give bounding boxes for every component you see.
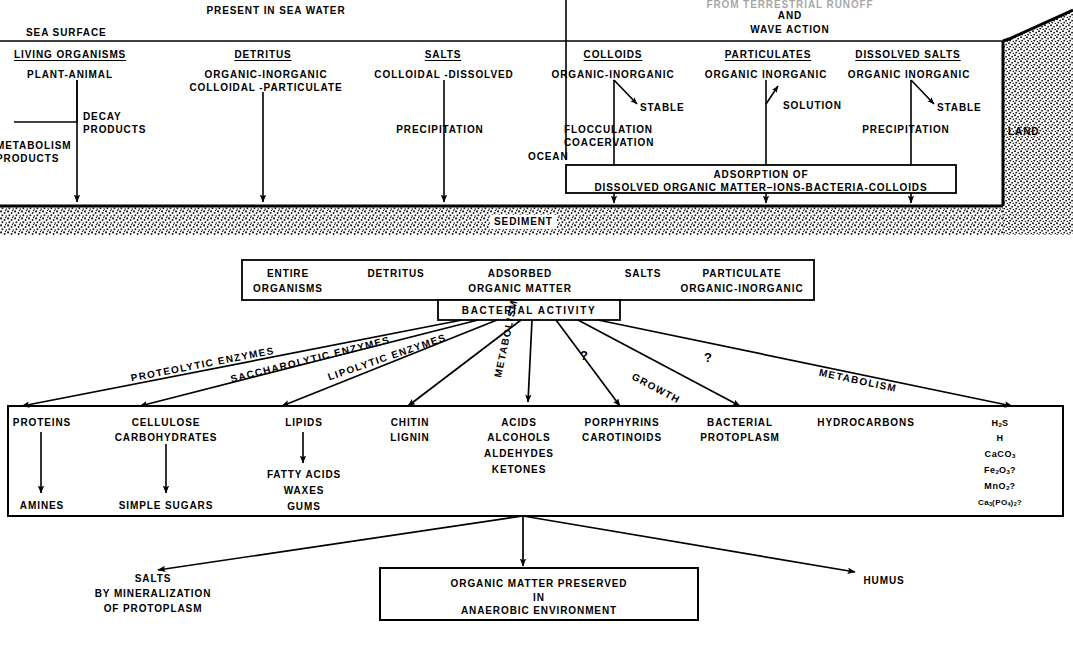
- column-text-dissolved-salts-1: ORGANIC INORGANIC: [848, 68, 971, 82]
- label-particulates-solution: SOLUTION: [783, 99, 842, 113]
- outcome-left-line1: SALTS: [135, 572, 172, 586]
- sediment-label: SEDIMENT: [490, 215, 557, 229]
- product-0-primary-0: PROTEINS: [13, 416, 71, 430]
- mineral-1: H: [996, 432, 1003, 444]
- mineral-5-formula: Ca3(PO4)2?: [978, 498, 1022, 507]
- pathway-label-question-1: ?: [580, 348, 588, 363]
- column-header-particulates: PARTICULATES: [725, 48, 812, 62]
- label-metabolism-products-1: METABOLISM: [0, 139, 71, 153]
- arrow-dissolved-salts-stable: [911, 80, 934, 104]
- substrate-item-2-line1: ADSORBED: [488, 267, 552, 281]
- pathway-arrow-question-2: [556, 320, 620, 406]
- mineral-2: CaCO3: [985, 448, 1016, 461]
- product-4-primary-2: ALDEHYDES: [484, 447, 554, 461]
- column-text-plant-animal: PLANT-ANIMAL: [27, 68, 113, 82]
- title-wave-action: WAVE ACTION: [750, 23, 829, 37]
- product-6-primary-0: BACTERIAL: [707, 416, 773, 430]
- substrate-item-3-line1: SALTS: [625, 267, 662, 281]
- substrate-item-2-line2: ORGANIC MATTER: [468, 282, 572, 296]
- diagram-vector-layer: [0, 0, 1073, 659]
- product-1-secondary-0: SIMPLE SUGARS: [119, 499, 214, 513]
- outcome-center-line1: ORGANIC MATTER PRESERVED: [451, 577, 628, 591]
- label-coacervation: COACERVATION: [564, 136, 654, 150]
- mineral-0: H2S: [991, 417, 1008, 430]
- product-1-primary-1: CARBOHYDRATES: [115, 431, 218, 445]
- label-dissolved-salts-stable: STABLE: [937, 101, 982, 115]
- product-2-secondary-0: FATTY ACIDS: [267, 468, 341, 482]
- land-mass: [1003, 10, 1073, 235]
- substrate-item-4-line1: PARTICULATE: [703, 267, 782, 281]
- outcome-left-line3: OF PROTOPLASM: [104, 602, 203, 616]
- label-decay-1: DECAY: [83, 110, 122, 124]
- product-2-secondary-1: WAXES: [284, 484, 325, 498]
- label-dissolved-salts-precipitation: PRECIPITATION: [862, 123, 949, 137]
- product-4-primary-3: KETONES: [492, 463, 546, 477]
- outcome-arrow-salts: [158, 516, 523, 570]
- arrow-particulates-solution: [766, 86, 778, 104]
- mineral-1-formula: H: [996, 433, 1003, 443]
- sea-surface-label: SEA SURFACE: [26, 26, 107, 40]
- product-6-primary-1: PROTOPLASM: [700, 431, 779, 445]
- product-7-primary-0: HYDROCARBONS: [817, 416, 914, 430]
- column-text-salts-1: COLLOIDAL -DISSOLVED: [374, 68, 513, 82]
- mineral-4: MnO2?: [984, 480, 1015, 493]
- ocean-label: OCEAN: [528, 150, 569, 164]
- column-text-detritus-2: COLLOIDAL -PARTICULATE: [189, 81, 342, 95]
- outcome-left-line2: BY MINERALIZATION: [95, 587, 212, 601]
- adsorption-box-line2: DISSOLVED ORGANIC MATTER–IONS-BACTERIA-C…: [594, 181, 927, 195]
- arrow-colloids-stable: [614, 80, 637, 104]
- bacterial-activity-label: BACTERIAL ACTIVITY: [462, 304, 596, 318]
- title-and: AND: [778, 9, 802, 23]
- substrate-item-0-line1: ENTIRE: [267, 267, 309, 281]
- column-header-detritus: DETRITUS: [234, 48, 291, 62]
- column-text-colloids-1: ORGANIC-INORGANIC: [551, 68, 674, 82]
- substrate-item-4-line2: ORGANIC-INORGANIC: [680, 282, 803, 296]
- column-header-salts: SALTS: [425, 48, 462, 62]
- column-text-particulates-1: ORGANIC INORGANIC: [705, 68, 828, 82]
- column-text-detritus-1: ORGANIC-INORGANIC: [204, 68, 327, 82]
- substrate-item-1-line1: DETRITUS: [367, 267, 424, 281]
- label-colloids-stable: STABLE: [640, 101, 685, 115]
- column-header-dissolved-salts: DISSOLVED SALTS: [855, 48, 960, 62]
- diagram-canvas: PRESENT IN SEA WATER FROM TERRESTRIAL RU…: [0, 0, 1073, 659]
- column-header-colloids: COLLOIDS: [584, 48, 643, 62]
- mineral-5: Ca3(PO4)2?: [978, 497, 1022, 509]
- product-3-primary-0: CHITIN: [391, 416, 430, 430]
- mineral-3-formula: Fe2O3?: [984, 465, 1016, 475]
- mineral-0-formula: H2S: [991, 418, 1008, 428]
- product-3-primary-1: LIGNIN: [390, 431, 429, 445]
- outcome-center-line2: IN: [533, 591, 545, 605]
- pathway-arrows: [22, 320, 1012, 406]
- mineral-2-formula: CaCO3: [985, 449, 1016, 459]
- label-flocculation: FLOCCULATION: [564, 123, 653, 137]
- outcome-arrows: [158, 516, 855, 572]
- column-header-living-organisms: LIVING ORGANISMS: [14, 48, 126, 62]
- arrow-metabolism-products: [14, 80, 77, 122]
- label-salts-precipitation: PRECIPITATION: [396, 123, 483, 137]
- adsorption-box-line1: ADSORPTION OF: [713, 168, 808, 182]
- product-5-primary-0: PORPHYRINS: [584, 416, 659, 430]
- product-2-secondary-2: GUMS: [287, 500, 321, 514]
- pathway-arrow-question-1: [528, 320, 532, 402]
- substrate-item-0-line2: ORGANISMS: [253, 282, 323, 296]
- title-present-in-sea-water: PRESENT IN SEA WATER: [206, 4, 345, 18]
- pathway-arrow-proteolytic: [22, 320, 462, 406]
- product-1-primary-0: CELLULOSE: [132, 416, 201, 430]
- product-4-primary-0: ACIDS: [501, 416, 537, 430]
- mineral-4-formula: MnO2?: [984, 481, 1015, 491]
- mineral-3: Fe2O3?: [984, 464, 1016, 477]
- product-2-primary-0: LIPIDS: [285, 416, 323, 430]
- label-decay-2: PRODUCTS: [83, 123, 146, 137]
- outcome-center-line3: ANAEROBIC ENVIRONMENT: [461, 604, 617, 618]
- product-0-secondary-0: AMINES: [20, 499, 64, 513]
- product-5-primary-1: CAROTINOIDS: [582, 431, 662, 445]
- label-metabolism-products-2: PRODUCTS: [0, 152, 59, 166]
- product-4-primary-1: ALCOHOLS: [487, 431, 550, 445]
- pathway-label-question-2: ?: [704, 350, 712, 365]
- land-label: LAND: [1008, 125, 1039, 139]
- outcome-arrow-humus: [523, 516, 855, 572]
- outcome-right-line1: HUMUS: [863, 574, 904, 588]
